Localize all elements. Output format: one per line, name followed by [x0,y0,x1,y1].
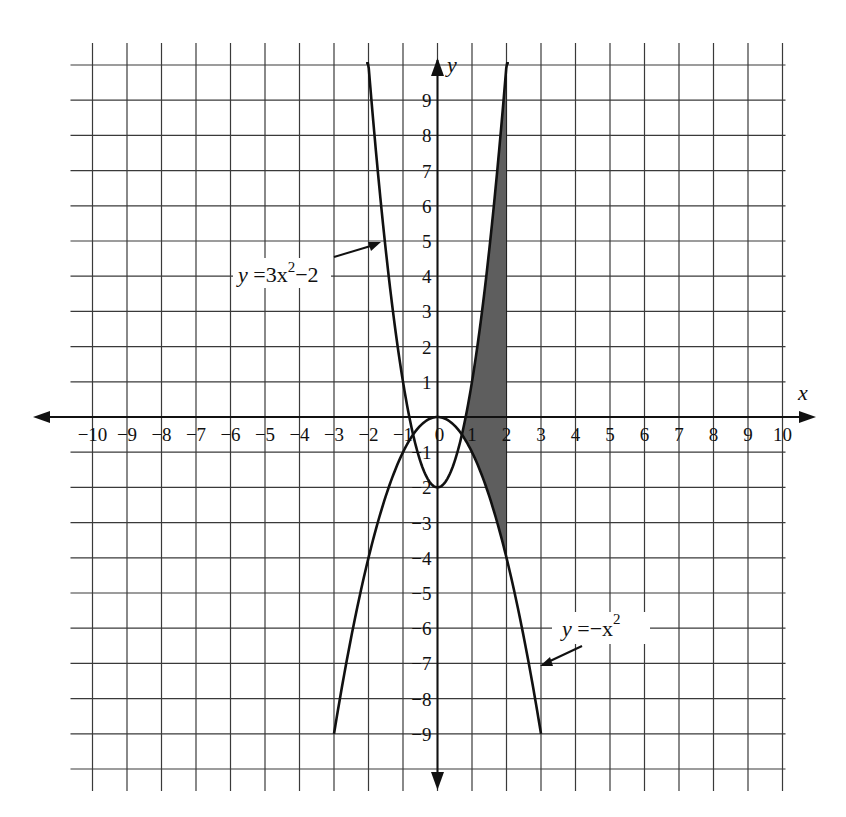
coordinate-plane: −10−9−8−7−6−5−4−3−2−10123456789109876543… [0,0,846,817]
x-tick-label: 2 [502,424,512,445]
equation-label-2: y =−x2 [560,611,621,641]
y-tick-label: 4 [422,266,432,287]
y-tick-label: 3 [422,301,432,322]
x-tick-label: −3 [324,424,344,445]
y-tick-label: −7 [411,653,431,674]
x-tick-label: 6 [640,424,650,445]
y-tick-label: 1 [422,372,432,393]
x-tick-label: 10 [773,424,792,445]
y-axis-up-arrow-icon [431,58,444,76]
y-tick-label: −9 [411,724,431,745]
y-tick-label: 8 [422,125,432,146]
x-tick-label: −8 [151,424,171,445]
x-tick-label: 3 [536,424,546,445]
x-axis-left-arrow-icon [33,411,50,423]
y-axis-down-arrow-icon [431,772,444,790]
y-tick-label: 6 [422,196,432,217]
x-tick-label: −4 [289,424,310,445]
x-axis-right-arrow-icon [799,411,816,423]
equation-label-1: y =3x2−2 [236,259,319,287]
y-tick-label: −3 [411,513,431,534]
y-tick-label: 5 [422,231,432,252]
x-tick-label: −5 [255,424,275,445]
x-tick-label: −1 [393,424,413,445]
annotation-parabola-upward: y =3x2−2 [233,242,381,288]
y-tick-label: −5 [411,583,431,604]
y-tick-label: −1 [411,442,431,463]
x-tick-label: 5 [605,424,615,445]
arrowhead-icon [540,657,553,666]
x-tick-label: −10 [78,424,108,445]
x-tick-label: 1 [467,424,477,445]
y-tick-label: −8 [411,689,431,710]
y-tick-label: 7 [422,161,432,182]
x-tick-label: 7 [674,424,684,445]
arrowhead-icon [368,242,381,251]
y-tick-label: 9 [422,90,432,111]
annotation-arrow-line [548,646,582,662]
x-tick-label: −7 [186,424,206,445]
y-axis-label: y [445,52,457,77]
x-tick-label: 0 [435,424,445,445]
annotation-parabola-downward: y =−x2 [540,611,650,666]
y-tick-label: 2 [422,337,432,358]
x-tick-label: 4 [571,424,581,445]
x-tick-label: 9 [743,424,753,445]
x-tick-label: 8 [709,424,719,445]
y-tick-label: −4 [411,548,432,569]
x-tick-label: −6 [220,424,240,445]
y-tick-label: −6 [411,618,431,639]
x-axis-label: x [797,380,808,405]
x-tick-label: −2 [358,424,378,445]
y-tick-label: −2 [411,477,431,498]
x-tick-label: −9 [117,424,137,445]
